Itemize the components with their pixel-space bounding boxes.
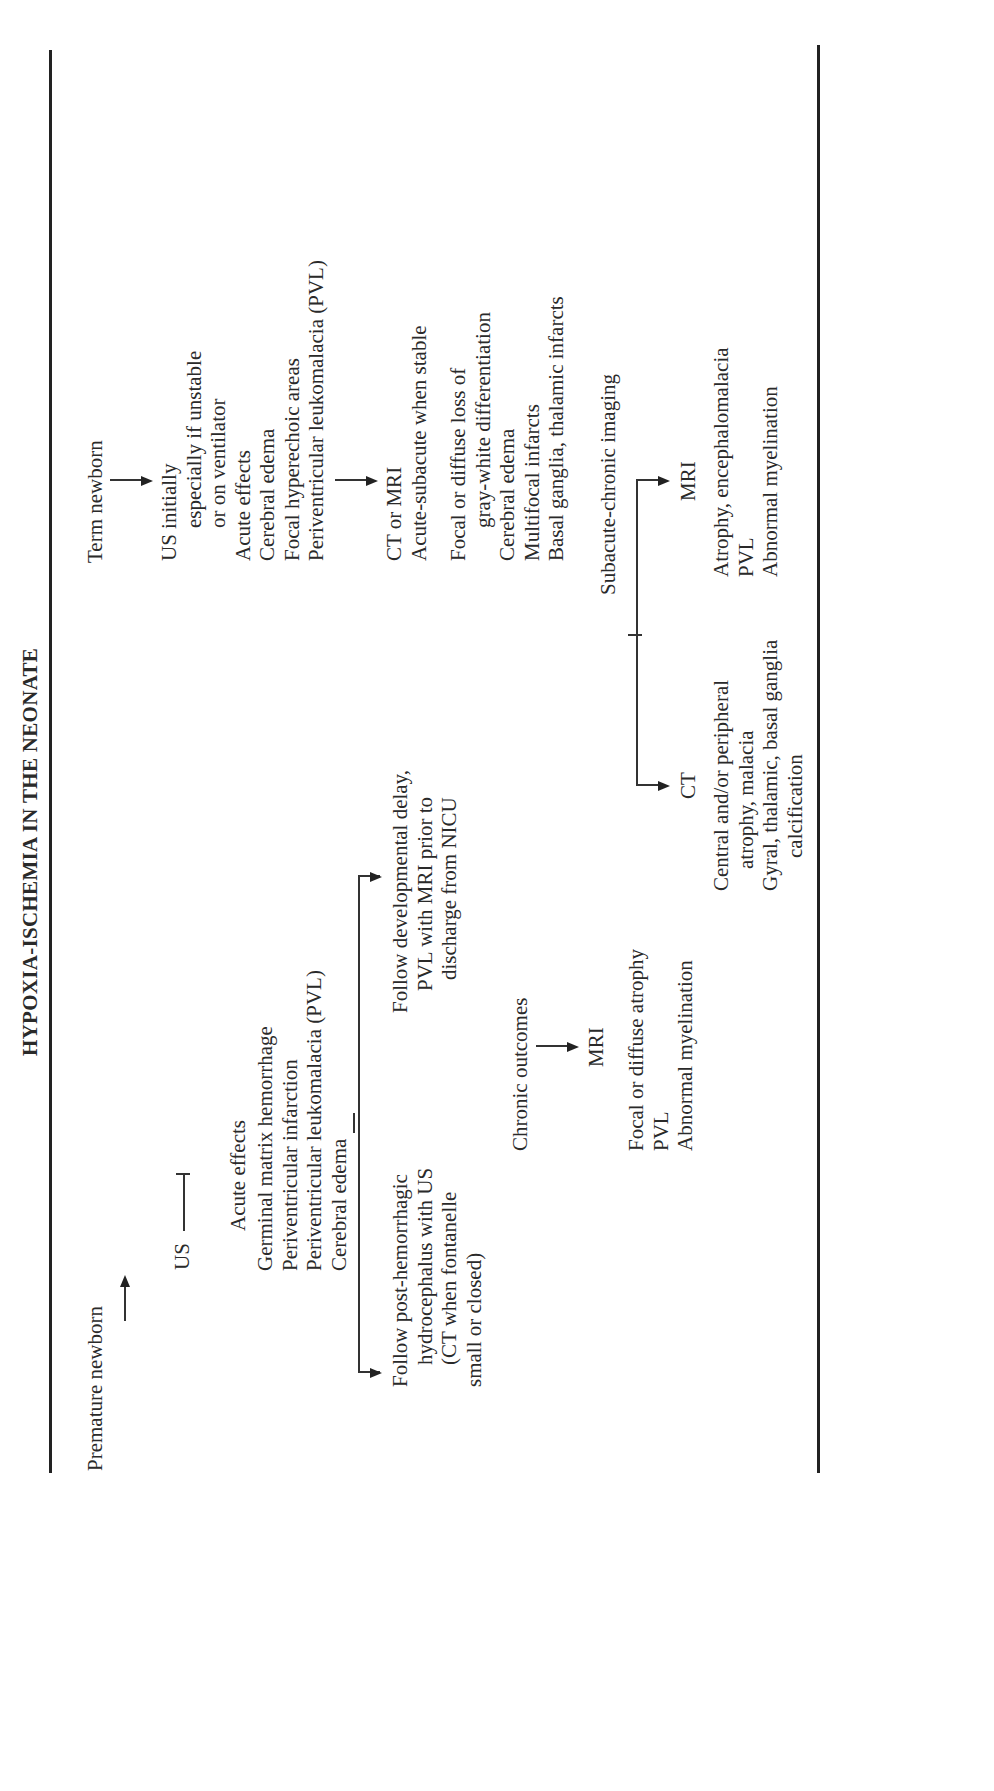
term-acute-header: Acute effects (231, 260, 256, 561)
text-line: Follow post-hemorrhagic (388, 1168, 413, 1387)
page-title: HYPOXIA-ISCHEMIA IN THE NEONATE (18, 648, 43, 1056)
bottom-rule (817, 45, 820, 1473)
connector-tick (176, 1173, 190, 1175)
premature-acute-item: Periventricular infarction (278, 970, 303, 1271)
arrow-head-icon (141, 476, 153, 486)
text-line: gray-white differentiation (471, 296, 496, 561)
text-line: Abnormal myelination (673, 949, 698, 1151)
term-acute-item: Cerebral edema (255, 260, 280, 561)
term-ct-label: CT (676, 772, 701, 799)
developmental-delay-followup: Follow developmental delay, PVL with MRI… (388, 770, 462, 1013)
text-line: PVL with MRI prior to (413, 770, 438, 1013)
premature-acute-list: Germinal matrix hemorrhage Periventricul… (253, 970, 351, 1271)
term-ctmri-sub: Acute-subacute when stable (407, 325, 432, 561)
term-findings: Focal or diffuse loss of gray-white diff… (446, 296, 569, 561)
term-newborn-label: Term newborn (83, 440, 108, 563)
text-line: Cerebral edema (495, 296, 520, 561)
premature-acute-item: Periventricular leukomalacia (PVL) (302, 970, 327, 1271)
term-mri-label: MRI (676, 461, 701, 501)
subacute-chronic-label: Subacute-chronic imaging (596, 374, 621, 595)
text-line: Focal or diffuse loss of (446, 296, 471, 561)
arrow-line (335, 479, 369, 481)
branch-stub (353, 1113, 355, 1133)
text-line: Basal ganglia, thalamic infarcts (544, 296, 569, 561)
branch-center-tick (628, 634, 642, 636)
arrow-head-icon (366, 476, 378, 486)
text-line: calcification (783, 640, 808, 891)
branch-horizontal (636, 481, 638, 786)
text-line: Gyral, thalamic, basal ganglia (758, 640, 783, 891)
top-rule (49, 50, 52, 1473)
premature-acute-header: Acute effects (226, 1120, 251, 1231)
text-line: hydrocephalus with US (413, 1168, 438, 1387)
text-line: discharge from NICU (437, 770, 462, 1013)
text-line: especially if unstable (182, 260, 207, 561)
premature-mri-findings: Focal or diffuse atrophy PVL Abnormal my… (624, 949, 698, 1151)
text-line: or on ventilator (206, 260, 231, 561)
text-line: PVL (649, 949, 674, 1151)
post-hemorrhagic-followup: Follow post-hemorrhagic hydrocephalus wi… (388, 1168, 486, 1387)
premature-newborn-label: Premature newborn (83, 1306, 108, 1471)
term-us-block: US initially especially if unstable or o… (157, 260, 329, 561)
text-line: small or closed) (462, 1168, 487, 1387)
text-line: (CT when fontanelle (437, 1168, 462, 1387)
text-line: PVL (734, 347, 759, 577)
text-line: Atrophy, encephalomalacia (709, 347, 734, 577)
text-line: Focal or diffuse atrophy (624, 949, 649, 1151)
arrow-head-icon (658, 476, 670, 486)
arrow-head-icon (567, 1042, 579, 1052)
arrow-head-icon (370, 1368, 382, 1378)
arrow-head-icon (658, 781, 670, 791)
connector-line (183, 1175, 185, 1231)
arrow-head-icon (120, 1275, 130, 1287)
term-ctmri-block: CT or MRI Acute-subacute when stable (382, 325, 431, 561)
text-line: Abnormal myelination (758, 347, 783, 577)
term-mri-findings: Atrophy, encephalomalacia PVL Abnormal m… (709, 347, 783, 577)
term-ctmri-label: CT or MRI (382, 325, 407, 561)
arrow-line (110, 479, 144, 481)
premature-us-label: US (170, 1243, 195, 1270)
premature-acute-item: Cerebral edema (327, 970, 352, 1271)
arrow-line (536, 1045, 570, 1047)
arrow-head-icon (370, 872, 382, 882)
arrow-line (124, 1285, 126, 1321)
term-ct-findings: Central and/or peripheral atrophy, malac… (709, 640, 807, 891)
premature-acute-item: Germinal matrix hemorrhage (253, 970, 278, 1271)
text-line: Follow developmental delay, (388, 770, 413, 1013)
text-line: US initially (157, 260, 182, 561)
text-line: Central and/or peripheral (709, 640, 734, 891)
text-line: atrophy, malacia (734, 640, 759, 891)
chronic-outcomes-label: Chronic outcomes (508, 998, 533, 1151)
term-acute-item: Periventricular leukomalacia (PVL) (304, 260, 329, 561)
premature-mri-label: MRI (584, 1027, 609, 1067)
term-acute-item: Focal hyperechoic areas (280, 260, 305, 561)
branch-horizontal (358, 877, 360, 1373)
diagram-page: HYPOXIA-ISCHEMIA IN THE NEONATE Prematur… (0, 0, 994, 1791)
text-line: Multifocal infarcts (520, 296, 545, 561)
